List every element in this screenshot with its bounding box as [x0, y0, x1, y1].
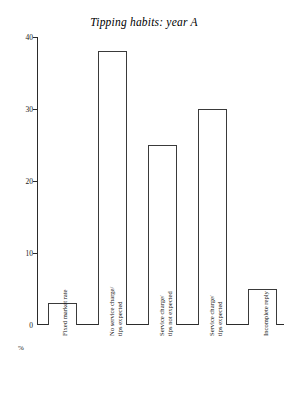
x-category-label-line: Service charge/ — [208, 295, 216, 336]
bar — [98, 51, 127, 325]
x-category-label-line: Fixed market rate — [61, 289, 69, 336]
y-axis-unit-label: % — [18, 344, 24, 352]
y-tick-mark — [33, 109, 38, 110]
x-category-label-line: tips expected — [115, 287, 123, 336]
x-category-label: Service charge/tips expected — [208, 295, 223, 336]
x-category-label-line: Service charge/ — [158, 291, 166, 336]
y-tick-label: 30 — [26, 105, 34, 114]
y-tick-mark — [33, 253, 38, 254]
x-category-label: Incomplete reply — [262, 291, 270, 336]
bar — [198, 109, 227, 325]
chart-container: Tipping habits: year A 102030400 % Fixed… — [0, 0, 288, 413]
x-category-label: Service charge/tips not expected — [158, 291, 173, 336]
y-tick-mark — [33, 37, 38, 38]
x-category-label-line: tips expected — [216, 295, 224, 336]
y-tick-mark — [33, 181, 38, 182]
y-tick-label: 10 — [26, 249, 34, 258]
chart-title: Tipping habits: year A — [0, 16, 288, 28]
y-tick-label: 0 — [29, 321, 33, 330]
plot-area: 102030400 — [37, 37, 288, 325]
x-category-label: No service charge/tips expected — [108, 287, 123, 336]
y-tick-label: 20 — [26, 177, 34, 186]
x-category-label-line: Incomplete reply — [262, 291, 270, 336]
x-category-label-line: tips not expected — [165, 291, 173, 336]
x-category-label-line: No service charge/ — [108, 287, 116, 336]
x-category-label: Fixed market rate — [61, 289, 69, 336]
y-tick-label: 40 — [26, 33, 34, 42]
